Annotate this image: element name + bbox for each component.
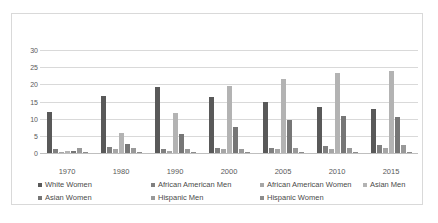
bar-group xyxy=(40,3,94,164)
bar xyxy=(209,97,214,153)
bar-groups xyxy=(40,14,418,164)
legend-label: Asian Women xyxy=(45,191,92,204)
legend-swatch-icon xyxy=(151,196,155,200)
bar xyxy=(53,149,58,153)
bar xyxy=(317,107,322,153)
x-tick-label: 2000 xyxy=(202,165,256,179)
bar xyxy=(233,127,238,153)
y-tick-label: 0 xyxy=(16,150,38,157)
legend-swatch-icon xyxy=(363,183,367,187)
x-axis: 1970198019902000200520102015 xyxy=(40,165,418,179)
bar xyxy=(269,148,274,153)
y-tick-label: 5 xyxy=(16,132,38,139)
bar xyxy=(407,152,412,153)
bar xyxy=(377,145,382,153)
bar xyxy=(371,109,376,153)
bar xyxy=(227,86,232,153)
bar xyxy=(329,149,334,153)
legend-swatch-icon xyxy=(260,183,264,187)
x-tick-label: 2015 xyxy=(364,165,418,179)
bar xyxy=(47,112,52,153)
legend-item[interactable]: Asian Women xyxy=(38,191,92,204)
x-tick-label: 2005 xyxy=(256,165,310,179)
legend-label: African American Women xyxy=(267,178,351,191)
bar xyxy=(77,148,82,153)
bar xyxy=(341,116,346,153)
bar xyxy=(263,102,268,153)
legend-swatch-icon xyxy=(38,196,42,200)
bar xyxy=(71,151,76,153)
y-tick-label: 15 xyxy=(16,98,38,105)
bar-group xyxy=(148,3,202,164)
legend-item[interactable]: Asian Men xyxy=(363,178,405,191)
bar xyxy=(179,134,184,153)
y-tick-label: 10 xyxy=(16,115,38,122)
bar-group xyxy=(364,3,418,164)
x-tick-label: 2010 xyxy=(310,165,364,179)
legend-label: Hispanic Women xyxy=(267,191,324,204)
bar xyxy=(167,151,172,153)
bar xyxy=(353,152,358,153)
bar xyxy=(65,151,70,153)
legend-item[interactable]: African American Women xyxy=(260,178,351,191)
bar xyxy=(239,149,244,153)
y-tick-label: 25 xyxy=(16,64,38,71)
bar-group xyxy=(310,3,364,164)
bar xyxy=(293,148,298,153)
bar xyxy=(101,96,106,153)
legend-swatch-icon xyxy=(38,183,42,187)
bar-group xyxy=(94,3,148,164)
bar xyxy=(395,117,400,153)
legend-item[interactable]: Hispanic Women xyxy=(260,191,324,204)
legend-row: White WomenAfrican American MenAfrican A… xyxy=(38,178,408,191)
bar xyxy=(59,152,64,153)
y-tick-label: 30 xyxy=(16,47,38,54)
bar-group xyxy=(256,3,310,164)
plot-area: 051015202530 xyxy=(12,14,424,164)
bar xyxy=(299,152,304,153)
x-tick-label: 1990 xyxy=(148,165,202,179)
bar xyxy=(215,148,220,153)
bar xyxy=(161,149,166,153)
legend-row: Asian WomenHispanic MenHispanic Women xyxy=(38,191,408,204)
y-tick-label: 20 xyxy=(16,81,38,88)
legend-label: Asian Men xyxy=(370,178,405,191)
bar xyxy=(389,71,394,153)
legend-swatch-icon xyxy=(260,196,264,200)
chart-card: 051015202530 197019801990200020052010201… xyxy=(11,13,423,205)
legend-label: Hispanic Men xyxy=(158,191,203,204)
legend-label: White Women xyxy=(45,178,92,191)
bar xyxy=(83,152,88,153)
bar xyxy=(119,133,124,153)
x-tick-label: 1970 xyxy=(40,165,94,179)
bar xyxy=(113,149,118,153)
chart-legend: White WomenAfrican American MenAfrican A… xyxy=(38,178,408,204)
bar xyxy=(281,79,286,153)
bar xyxy=(401,145,406,153)
bar xyxy=(245,152,250,153)
bar xyxy=(383,148,388,153)
bar xyxy=(323,146,328,153)
bar-group xyxy=(202,3,256,164)
bar xyxy=(275,149,280,153)
bar xyxy=(173,113,178,153)
bar xyxy=(335,73,340,153)
bar xyxy=(125,144,130,153)
legend-item[interactable]: White Women xyxy=(38,178,92,191)
bar xyxy=(107,147,112,153)
x-tick-label: 1980 xyxy=(94,165,148,179)
bar xyxy=(191,152,196,153)
bar xyxy=(155,87,160,153)
bar xyxy=(287,120,292,153)
legend-label: African American Men xyxy=(158,178,231,191)
bar xyxy=(347,148,352,153)
bar xyxy=(131,148,136,153)
bar xyxy=(221,149,226,153)
y-axis: 051015202530 xyxy=(16,14,38,164)
bar xyxy=(185,149,190,153)
legend-swatch-icon xyxy=(151,183,155,187)
bar xyxy=(137,152,142,153)
legend-item[interactable]: African American Men xyxy=(151,178,231,191)
legend-item[interactable]: Hispanic Men xyxy=(151,191,203,204)
